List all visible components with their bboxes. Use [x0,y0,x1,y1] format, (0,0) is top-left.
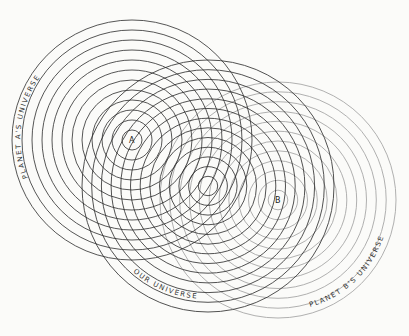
universes-diagram: PLANET A'S UNIVERSEOUR UNIVERSEPLANET B'… [0,0,409,336]
ring [82,60,334,312]
label-planet_a: PLANET A'S UNIVERSE [14,73,42,180]
center-marker-planet_a: A [129,136,135,145]
concentric-rings [12,20,396,318]
center-marker-planet_b: B [275,196,281,205]
label-planet_b: PLANET B'S UNIVERSE [308,234,386,309]
ring [198,176,217,195]
ring [131,109,286,264]
ring [189,167,228,206]
ring [121,99,295,273]
rings-our [82,60,334,312]
